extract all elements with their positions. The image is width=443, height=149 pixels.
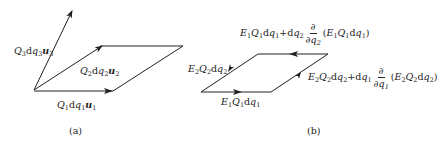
caption-b: (b) (307, 125, 321, 136)
label-top-edge: E1Q1dq1+dq2 ∂∂q2 (E1Q1dq1) (240, 22, 370, 46)
caption-a: (a) (69, 125, 82, 136)
plus-d: +d (347, 71, 361, 82)
parallelogram-right-edge (113, 46, 183, 91)
sub: 2 (299, 32, 303, 40)
sub: 1 (92, 104, 96, 112)
partial-derivative: ∂∂q2 (306, 22, 321, 46)
panel-a-graphic (34, 11, 183, 94)
coef: Q (14, 45, 22, 56)
sub: 3 (49, 50, 53, 58)
E: E (188, 63, 195, 74)
coef: Q (57, 99, 65, 110)
Q: Q (199, 63, 207, 74)
label-u1: Q1dq1u1 (57, 100, 96, 112)
E: E (308, 71, 315, 82)
label-bottom-edge: E1Q1dq1 (221, 97, 260, 109)
sub: 2 (317, 39, 321, 47)
sub: 2 (223, 68, 227, 76)
paren: ) (366, 27, 370, 38)
Q: Q (319, 71, 327, 82)
partial-derivative: ∂∂q1 (374, 66, 389, 90)
label-u2: Q2dq2u2 (80, 66, 119, 78)
Q: Q (232, 96, 240, 107)
right-edge-arrowhead (295, 72, 301, 79)
partial-numerator: ∂ (310, 22, 317, 34)
paren: ) (434, 71, 438, 82)
E: E (240, 27, 247, 38)
sub: 2 (115, 70, 119, 78)
label-left-edge: E2Q2dq2 (188, 64, 227, 76)
plus-d: +d (279, 27, 293, 38)
sub: 1 (256, 101, 260, 109)
label-right-edge: E2Q2dq2+dq1 ∂∂q1 (E2Q2dq2) (308, 66, 438, 90)
label-u3: Q3dq3u3 (14, 46, 53, 58)
coef: Q (80, 65, 88, 76)
sub: 1 (367, 76, 371, 84)
partial-numerator: ∂ (378, 66, 385, 78)
Q: Q (251, 27, 259, 38)
partial-denominator: ∂q (306, 34, 317, 45)
sub: 1 (385, 83, 389, 91)
E: E (221, 96, 228, 107)
partial-denominator: ∂q (374, 78, 385, 89)
